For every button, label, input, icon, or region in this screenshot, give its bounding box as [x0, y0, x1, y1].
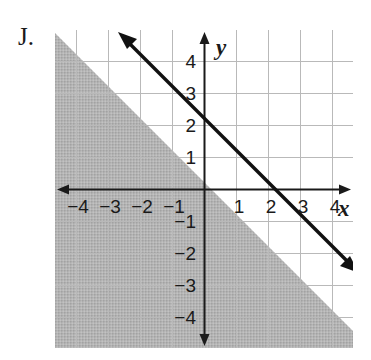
y-tick-label: 2 — [185, 115, 196, 136]
y-tick-label: 3 — [185, 83, 196, 104]
y-axis-title: y — [213, 35, 227, 60]
y-tick-label: −2 — [174, 243, 196, 264]
y-tick-label: 4 — [185, 51, 196, 72]
choice-letter-label: J. — [18, 24, 34, 49]
x-tick-label: −4 — [67, 196, 89, 217]
x-axis-title: x — [337, 196, 350, 221]
y-tick-label: −4 — [174, 307, 196, 328]
x-tick-label: −2 — [131, 196, 153, 217]
x-tick-label: 2 — [266, 196, 277, 217]
coordinate-graph: −4 −3 −2 −1 1 2 3 4 4 3 2 1 −1 −2 — [55, 30, 353, 348]
y-tick-label: −1 — [174, 211, 196, 232]
y-tick-label: 1 — [185, 147, 196, 168]
x-tick-label: 3 — [298, 196, 309, 217]
coordinate-plane-svg: −4 −3 −2 −1 1 2 3 4 4 3 2 1 −1 −2 — [55, 30, 353, 348]
x-tick-label: 1 — [234, 196, 245, 217]
x-tick-label: −3 — [99, 196, 121, 217]
y-tick-label: −3 — [174, 275, 196, 296]
problem-choice-figure: J. — [0, 0, 371, 360]
